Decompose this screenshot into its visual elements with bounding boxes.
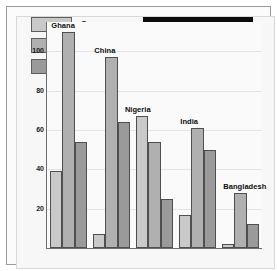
bar-bangladesh-cars	[222, 244, 234, 248]
category-label-china: China	[94, 46, 115, 55]
y-axis-tick-label: 40	[20, 165, 44, 172]
gridline	[47, 130, 262, 131]
bar-nigeria-telephones	[161, 199, 173, 248]
bar-ghana-televisions	[62, 32, 74, 248]
bar-china-televisions	[105, 57, 117, 248]
y-axis: 20406080100	[16, 22, 44, 248]
bar-ghana-cars	[50, 171, 62, 248]
gridline	[47, 91, 262, 92]
gridline	[47, 51, 262, 52]
bar-bangladesh-televisions	[234, 193, 246, 248]
category-label-bangladesh: Bangladesh	[223, 182, 266, 191]
bar-nigeria-cars	[136, 116, 148, 248]
category-label-nigeria: Nigeria	[125, 105, 151, 114]
y-axis-tick-label: 100	[20, 47, 44, 54]
bar-india-telephones	[204, 150, 216, 248]
y-axis-tick-label: 80	[20, 87, 44, 94]
category-label-india: India	[180, 117, 198, 126]
y-axis-tick-label: 60	[20, 126, 44, 133]
plot-area	[46, 22, 262, 249]
bar-nigeria-televisions	[148, 142, 160, 248]
y-axis-tick-label: 20	[20, 205, 44, 212]
category-label-ghana: Ghana	[51, 21, 75, 30]
bar-bangladesh-telephones	[247, 224, 259, 248]
chart-figure: CarsTelevisionsTelephones LOW INCOME Num…	[0, 0, 277, 271]
bar-ghana-telephones	[75, 142, 87, 248]
bar-china-cars	[93, 234, 105, 248]
bar-china-telephones	[118, 122, 130, 248]
bar-india-televisions	[191, 128, 203, 248]
bar-india-cars	[179, 215, 191, 248]
